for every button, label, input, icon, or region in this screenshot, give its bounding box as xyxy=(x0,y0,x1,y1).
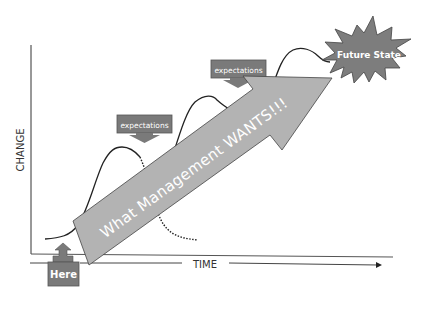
expectations-label: expectations xyxy=(214,66,262,75)
x-axis-label: TIME xyxy=(192,259,217,270)
up-arrow-icon xyxy=(53,243,73,262)
here-marker: Here xyxy=(48,243,79,286)
future-state-label: Future State xyxy=(337,50,401,60)
expectations-callout-1: expectations xyxy=(117,115,172,143)
change-diagram: CHANGE TIME expectations expectations Wh… xyxy=(0,0,443,312)
management-wants-arrow: What Management WANTS!!! xyxy=(73,76,332,265)
expectations-label: expectations xyxy=(120,121,168,130)
future-state-starburst: Future State xyxy=(322,16,411,83)
down-arrow-icon xyxy=(129,133,160,143)
arrowhead-icon xyxy=(376,262,382,268)
time-axis-arrow: TIME xyxy=(30,259,382,270)
here-label: Here xyxy=(50,269,77,280)
y-axis-label: CHANGE xyxy=(15,129,26,172)
